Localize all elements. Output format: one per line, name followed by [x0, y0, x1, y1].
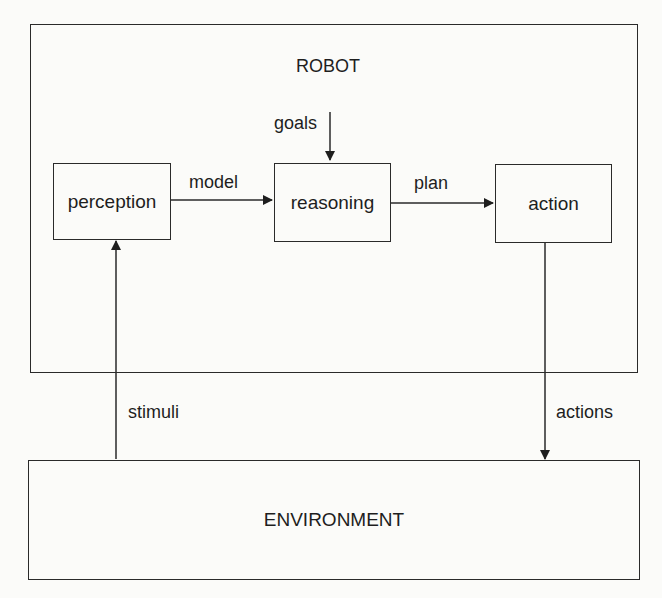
environment-label: ENVIRONMENT: [264, 509, 404, 531]
robot-label: ROBOT: [296, 56, 360, 77]
stimuli-label: stimuli: [128, 402, 179, 423]
reasoning-node: reasoning: [274, 163, 391, 242]
reasoning-label: reasoning: [291, 192, 374, 214]
model-label: model: [189, 172, 238, 193]
perception-node: perception: [53, 163, 171, 240]
actions-label: actions: [556, 402, 613, 423]
perception-label: perception: [68, 191, 157, 213]
plan-label: plan: [414, 173, 448, 194]
goals-label: goals: [274, 113, 317, 134]
action-node: action: [495, 164, 612, 243]
action-label: action: [528, 193, 579, 215]
environment-node: ENVIRONMENT: [28, 460, 640, 580]
